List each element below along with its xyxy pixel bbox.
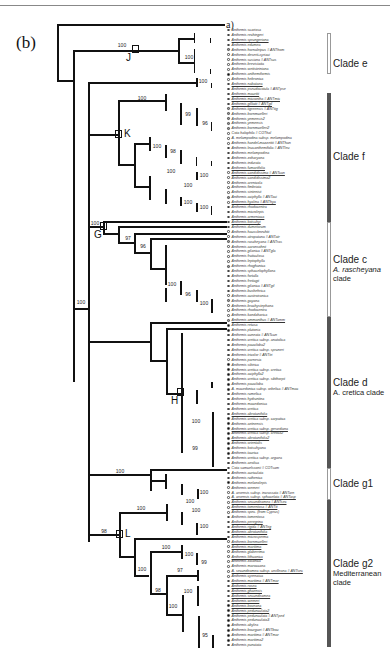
- clade-bar: [327, 93, 331, 222]
- taxon-row: A. melampodina subsp. melampodina: [227, 136, 292, 141]
- taxon-row: Anthemis maritima # ANTmar: [227, 633, 279, 638]
- filled-circle-icon: [227, 324, 230, 327]
- grey-circle-icon: [227, 107, 230, 110]
- open-circle-icon: [227, 230, 230, 233]
- taxon-row: Anthemis yemensis: [227, 121, 263, 126]
- taxon-row: Anthemis bornmuelleri: [227, 540, 267, 545]
- filled-circle-icon: [227, 383, 230, 386]
- taxon-name: Anthemis hornaleipus # ANThom: [232, 48, 285, 52]
- branch: [150, 238, 227, 240]
- open-circle-icon: [227, 142, 230, 145]
- taxon-row: Cota halophila # COThal: [227, 131, 271, 136]
- bootstrap-value: 100: [77, 299, 85, 305]
- clade-label: Clade g1: [333, 478, 373, 489]
- taxon-row: Anthemis hydruntina: [227, 397, 264, 402]
- bootstrap-value: 98: [170, 148, 176, 154]
- taxon-row: Anthemis edumea: [227, 43, 261, 48]
- taxon-name: Anthemis scariosa: [232, 28, 261, 32]
- taxon-row: Anthemis kotschyana: [227, 446, 266, 451]
- filled-circle-icon: [227, 442, 230, 445]
- taxon-row: Anthemis rigida # ANTrig: [227, 525, 271, 530]
- taxon-name: Anthemis lithuanica: [232, 555, 263, 559]
- taxon-row: Anthemis retusa: [227, 323, 258, 328]
- open-circle-icon: [227, 260, 230, 263]
- taxon-name: Anthemis microlepis: [232, 210, 264, 214]
- clade-bar: [327, 222, 331, 317]
- taxon-name: Anthemis abrotanifolia: [232, 530, 268, 534]
- taxon-row: Anthemis bornmuelleri: [227, 112, 267, 117]
- taxon-name: Anthemis rosea: [232, 584, 257, 588]
- bootstrap-value: 99: [201, 559, 207, 565]
- open-circle-icon: [227, 486, 230, 489]
- taxon-name: Anthemis haussknechtii: [232, 230, 270, 234]
- clade-name: Clade g2: [333, 558, 373, 569]
- clade-bar: [327, 500, 331, 647]
- taxon-row: Anthemis aaronsohnii: [227, 245, 266, 250]
- filled-circle-icon: [227, 354, 230, 357]
- taxon-name: A. melampodina subsp. melampodina: [232, 136, 292, 140]
- grey-circle-icon: [227, 127, 230, 130]
- taxon-row: Cota samuelssonii # COTsam: [227, 466, 279, 471]
- taxon-name: Anthemis melanolepis: [232, 481, 267, 485]
- taxon-row: Anthemis maritima: [227, 545, 261, 550]
- taxon-row: Anthemis zaianica: [227, 559, 261, 564]
- taxon-name: Anthemis tricolor # ANTtri: [232, 353, 273, 357]
- branch: [211, 122, 212, 131]
- taxon-row: Anthemis plutonia: [227, 328, 260, 333]
- taxon-row: Anthemis gilanica # ANTgil: [227, 284, 274, 289]
- filled-circle-icon: [227, 457, 230, 460]
- taxon-row: Anthemis tigreensis # ANTtig: [227, 107, 278, 112]
- filled-circle-icon: [227, 604, 230, 607]
- open-circle-icon: [227, 570, 230, 573]
- branch: [150, 480, 165, 482]
- open-circle-icon: [227, 245, 230, 248]
- taxon-row: Anthemis gilanica # ANTgla: [227, 249, 276, 254]
- branch: [211, 206, 212, 215]
- open-circle-icon: [227, 235, 230, 238]
- open-circle-icon: [227, 176, 230, 179]
- filled-circle-icon: [227, 363, 230, 366]
- backbone-2: [88, 82, 90, 542]
- branch: [134, 575, 149, 577]
- taxon-name: Anthemis sibirica: [232, 363, 259, 367]
- taxon-name: Anthemis fumariifolia: [232, 166, 265, 170]
- open-circle-icon: [227, 78, 230, 81]
- bootstrap-value: 98: [101, 528, 107, 534]
- grey-circle-icon: [227, 196, 230, 199]
- bootstrap-value: 100: [184, 588, 192, 594]
- taxon-name: Anthemis bornmuelleri: [232, 540, 268, 544]
- taxon-row: Anthemis cretica subsp. carpatica: [227, 417, 285, 422]
- filled-circle-icon: [227, 378, 230, 381]
- taxon-row: Anthemis cretica subsp. cretica2: [227, 431, 283, 436]
- branch: [196, 553, 198, 565]
- taxon-name: Anthemis candidissima # ANTcan: [232, 171, 285, 175]
- open-circle-icon: [227, 501, 230, 504]
- branch: [211, 83, 212, 88]
- taxon-name: Anthemis maritima: [232, 545, 262, 549]
- bootstrap-value: 100: [167, 168, 175, 174]
- open-circle-icon: [227, 34, 230, 37]
- branch: [198, 616, 200, 648]
- taxon-name: Anthemis yemensis: [232, 121, 263, 125]
- taxon-name: Anthemis microsperma: [232, 535, 269, 539]
- taxon-row: Anthemis candidissima # ANTcan: [227, 171, 285, 176]
- bootstrap-value: 100: [192, 507, 200, 513]
- taxon-name: Anthemis kotschyana: [232, 446, 266, 450]
- taxon-row: Anthemis handel-mazzettii # ANThan: [227, 141, 291, 146]
- taxon-row: Anthemis taurica: [227, 451, 258, 456]
- grey-circle-icon: [227, 98, 230, 101]
- open-circle-icon: [227, 152, 230, 155]
- taxon-name: Anthemis fimbriata: [232, 185, 262, 189]
- branch: [211, 382, 213, 388]
- taxon-row: Anthemis parnesia: [227, 358, 261, 363]
- taxon-name: Anthemis bushehrica: [232, 289, 266, 293]
- taxon-name: Anthemis fruticulosa: [232, 254, 264, 258]
- clade-label: Clade cA. rascheyanaclade: [333, 254, 381, 283]
- filled-circle-icon: [227, 344, 230, 347]
- filled-circle-icon: [227, 408, 230, 411]
- taxon-row: Anthemis gilliatii # ANTgil: [227, 102, 272, 107]
- taxon-name: Anthemis pedunculata2: [232, 609, 270, 613]
- taxon-name: Anthemis aetnensis: [232, 422, 263, 426]
- taxon-row: Anthemis rhoghanica: [227, 264, 265, 269]
- taxon-row: Anthemis abrotanifolia: [227, 530, 267, 535]
